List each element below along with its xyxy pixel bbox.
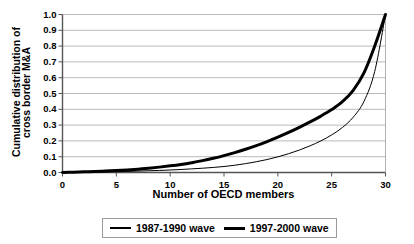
chart-legend: 1987-1990 wave 1997-2000 wave: [102, 218, 337, 238]
legend-line-swatch-thick: [224, 227, 245, 230]
gridlines: [63, 15, 386, 157]
legend-entry-1997-2000: 1997-2000 wave: [224, 222, 329, 234]
legend-entry-1987-1990: 1987-1990 wave: [110, 222, 215, 234]
chart-figure: Cumulative distribution of cross border …: [0, 0, 414, 244]
legend-label-1997-2000: 1997-2000 wave: [250, 222, 329, 234]
legend-line-swatch-thin: [110, 227, 131, 228]
legend-label-1987-1990: 1987-1990 wave: [136, 222, 215, 234]
x-axis-title: Number of OECD members: [62, 188, 385, 200]
plot-area: [0, 0, 414, 244]
